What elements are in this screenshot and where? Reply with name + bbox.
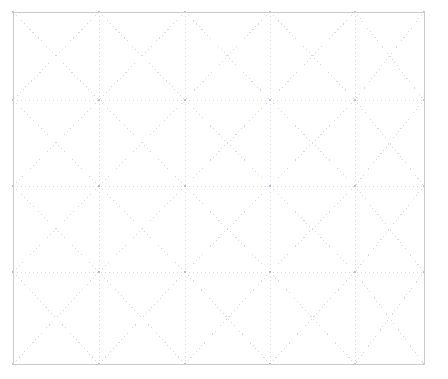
mesh-diagram [0, 0, 448, 379]
cell-diagonal-trbl-r3-c4 [355, 272, 424, 364]
cell-diagonal-tlbr-r3-c1 [99, 272, 185, 364]
cell-diagonal-tlbr-r3-c0 [13, 272, 99, 364]
mesh-node-r3-c2 [184, 271, 186, 273]
mesh-node-r2-c1 [98, 185, 100, 187]
cell-diagonal-trbl-r3-c1 [99, 272, 185, 364]
mesh-node-r1-c3 [269, 99, 271, 101]
cell-diagonal-trbl-r3-c0 [13, 272, 99, 364]
cell-diagonal-tlbr-r3-c2 [185, 272, 270, 364]
mesh-node-r2-c2 [184, 185, 186, 187]
cell-diagonal-tlbr-r3-c4 [355, 272, 424, 364]
cell-diagonal-trbl-r2-c0 [13, 186, 99, 272]
cell-diagonal-trbl-r2-c1 [99, 186, 185, 272]
cell-diagonal-trbl-r2-c3 [270, 186, 355, 272]
mesh-node-r3-c4 [354, 271, 356, 273]
cell-diagonal-trbl-r2-c2 [185, 186, 270, 272]
cell-diagonal-trbl-r1-c1 [99, 100, 185, 186]
mesh-node-r1-c1 [98, 99, 100, 101]
mesh-node-r2-c3 [269, 185, 271, 187]
mesh-node-r3-c1 [98, 271, 100, 273]
mesh-node-r3-c3 [269, 271, 271, 273]
cell-diagonal-trbl-r3-c3 [270, 272, 355, 364]
cell-diagonal-tlbr-r3-c3 [270, 272, 355, 364]
mesh-figure-canvas [0, 0, 448, 379]
outer-border [14, 13, 425, 365]
mesh-node-r1-c2 [184, 99, 186, 101]
mesh-node-r2-c4 [354, 185, 356, 187]
cell-diagonal-trbl-r3-c2 [185, 272, 270, 364]
mesh-node-r1-c4 [354, 99, 356, 101]
